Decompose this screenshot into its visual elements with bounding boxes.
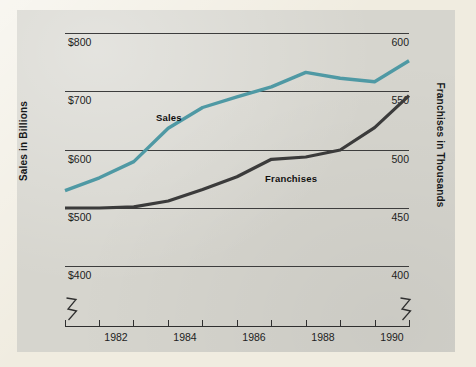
x-axis-label-1984: 1984	[173, 332, 196, 343]
x-tick-1985	[202, 320, 203, 327]
x-tick-1984	[168, 320, 169, 327]
series-line-franchises	[65, 96, 409, 208]
x-axis-label-1988: 1988	[311, 332, 334, 343]
x-tick-1981	[65, 320, 66, 327]
x-tick-1991	[409, 320, 410, 327]
x-tick-1983	[133, 320, 134, 327]
x-tick-1989	[340, 320, 341, 327]
x-axis-label-1986: 1986	[242, 332, 265, 343]
x-tick-1982	[99, 320, 100, 327]
x-tick-1990	[375, 320, 376, 327]
x-tick-1988	[306, 320, 307, 327]
plot-area: $800 $700 $600 $500 $400 600 550 500 450…	[0, 0, 476, 367]
axis-break-right-icon	[398, 296, 414, 322]
series-label-sales: Sales	[156, 113, 182, 123]
x-tick-1986	[237, 320, 238, 327]
series-label-franchises: Franchises	[265, 174, 317, 184]
x-axis-label-1990: 1990	[380, 332, 403, 343]
axis-break-left-icon	[64, 296, 80, 322]
x-axis-label-1982: 1982	[104, 332, 127, 343]
x-tick-1987	[271, 320, 272, 327]
chart-figure: $800 $700 $600 $500 $400 600 550 500 450…	[0, 0, 476, 367]
series-line-sales	[65, 61, 409, 191]
